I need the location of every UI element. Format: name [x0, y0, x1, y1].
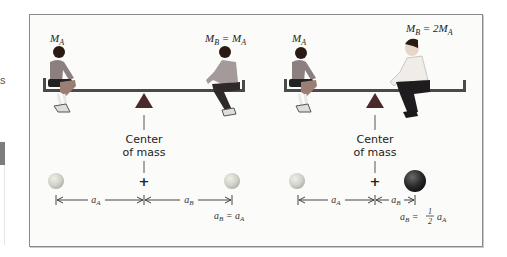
label-distance-a: aA — [91, 194, 101, 207]
svg-text:aA: aA — [437, 211, 447, 224]
right-diagram: MA MB = 2MA Center of mass + aA aB aB = … — [284, 22, 466, 226]
svg-text:aB =: aB = — [400, 211, 419, 224]
seesaw-end-right — [242, 80, 245, 92]
kid-b-pants — [396, 80, 430, 114]
label-distance-a: aA — [331, 194, 341, 207]
com-label-line2: of mass — [122, 146, 165, 159]
sphere-b — [224, 173, 240, 189]
label-mass-a: MA — [291, 32, 306, 47]
com-plus-marker: + — [370, 174, 381, 189]
label-relation-half: aB = 1 2 aA — [400, 207, 447, 226]
kid-b-shirt — [206, 60, 238, 84]
com-label-line1: Center — [356, 133, 394, 146]
com-label-line2: of mass — [353, 146, 396, 159]
fulcrum-triangle — [366, 93, 384, 108]
kid-b-shoes — [222, 108, 236, 116]
kid-a-figure — [289, 47, 317, 112]
svg-text:2: 2 — [428, 217, 432, 226]
sphere-a — [48, 173, 64, 189]
kid-a-head — [295, 47, 307, 59]
dimension-line-left — [56, 195, 232, 205]
seesaw-end-left — [43, 78, 46, 92]
kid-a-shoes — [54, 104, 70, 112]
kid-a-shirt — [292, 60, 316, 82]
kid-a-head — [53, 46, 65, 58]
kid-b-head — [219, 46, 231, 58]
fulcrum-triangle — [135, 93, 153, 108]
center-of-mass-figure: MA MB = MA Center of mass + aA aB aB = a… — [0, 0, 507, 257]
label-distance-b: aB — [184, 194, 194, 207]
kid-b-large-figure — [390, 39, 430, 118]
kid-a-figure — [48, 46, 76, 112]
seesaw-end-left — [284, 79, 287, 92]
label-mass-b-equals: MB = MA — [204, 32, 246, 47]
com-plus-marker: + — [139, 174, 150, 189]
com-label-line1: Center — [125, 133, 163, 146]
kid-a-shirt — [50, 60, 74, 82]
left-diagram: MA MB = MA Center of mass + aA aB aB = a… — [43, 32, 246, 223]
label-distance-b: aB — [391, 194, 401, 207]
seesaw-end-right — [463, 80, 466, 92]
kid-b-figure — [206, 46, 240, 116]
sphere-a — [289, 173, 305, 189]
kid-a-shoes — [296, 104, 311, 112]
kid-a-leg — [60, 80, 76, 96]
label-relation-equal: aB = aA — [214, 210, 245, 223]
label-mass-a: MA — [49, 32, 64, 47]
sphere-b-heavy — [404, 170, 426, 192]
svg-text:1: 1 — [428, 207, 432, 216]
label-mass-b-double: MB = 2MA — [405, 22, 453, 37]
kid-a-leg — [301, 80, 317, 96]
kid-b-pants — [212, 82, 240, 112]
kid-b-shoes — [403, 110, 418, 118]
